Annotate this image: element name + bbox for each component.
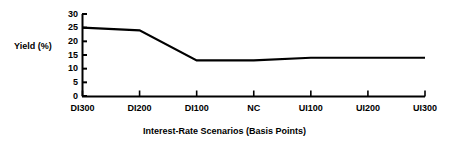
chart-figure: Yield (%) 051015202530 DI300DI200DI100NC… [0,0,449,146]
axis-lines [82,14,425,97]
plot-area [0,0,449,146]
yield-series-line [83,28,426,61]
